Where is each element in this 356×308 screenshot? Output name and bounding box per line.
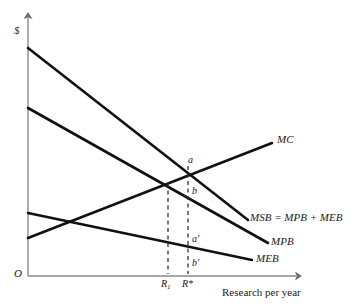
curve-label-msb: MSB = MPB + MEB bbox=[250, 212, 342, 223]
y-axis-label: $ bbox=[14, 25, 20, 36]
curve-label-mpb: MPB bbox=[271, 236, 294, 247]
curve-label-meb: MEB bbox=[256, 253, 279, 264]
tick-label-r1: R1 bbox=[161, 279, 171, 289]
point-label-b-prime: b' bbox=[192, 258, 199, 268]
origin-label: O bbox=[14, 268, 22, 279]
tick-label-rstar-text: R* bbox=[182, 278, 193, 289]
tick-label-rstar: R* bbox=[182, 279, 193, 289]
chart-svg bbox=[0, 0, 356, 308]
point-label-a-prime: a' bbox=[192, 234, 199, 244]
point-label-a: a bbox=[188, 155, 193, 165]
curve-label-mc: MC bbox=[277, 134, 294, 145]
diagram-canvas: $ O Research per year MSB = MPB + MEB MP… bbox=[0, 0, 356, 308]
point-label-b: b bbox=[192, 186, 197, 196]
curve-meb bbox=[28, 213, 252, 260]
tick-label-r1-subscript: 1 bbox=[167, 283, 171, 291]
x-axis-label: Research per year bbox=[222, 287, 301, 298]
